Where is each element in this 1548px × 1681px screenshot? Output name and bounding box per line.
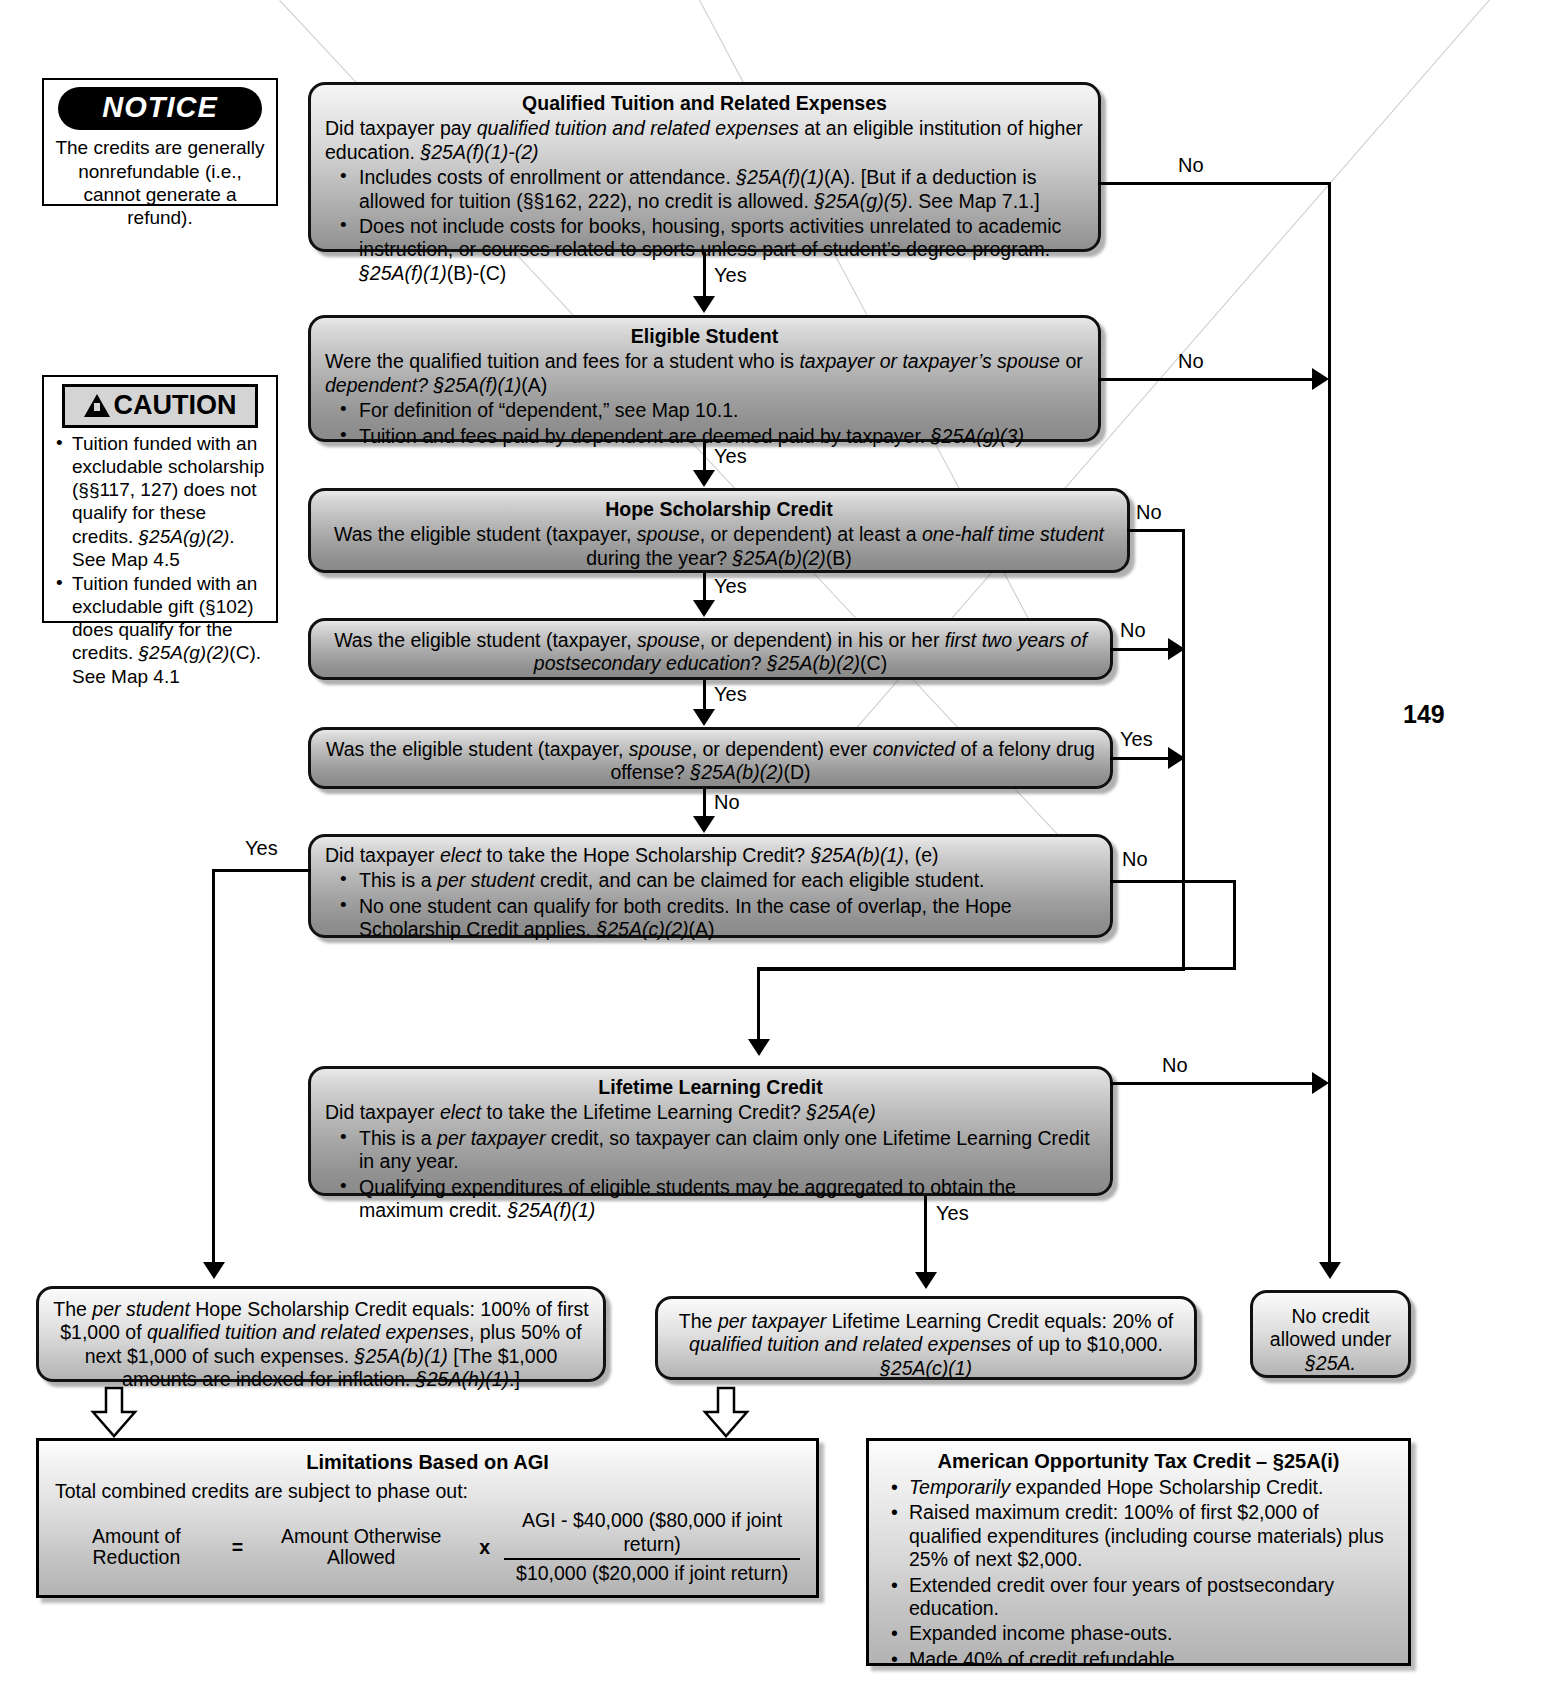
notice-panel: NOTICE The credits are generally nonrefu…: [42, 78, 278, 206]
hollow-arrow-down-icon: [90, 1386, 138, 1438]
node-header: Hope Scholarship Credit: [325, 498, 1113, 521]
result-text: The per taxpayer Lifetime Learning Credi…: [672, 1310, 1180, 1380]
result-no-credit[interactable]: No credit allowed under §25A.: [1250, 1290, 1411, 1378]
node-header: Lifetime Learning Credit: [325, 1076, 1096, 1099]
node-header: Eligible Student: [325, 325, 1084, 348]
node-eligible-student[interactable]: Eligible Student Were the qualified tuit…: [308, 315, 1101, 442]
connector-firsttwo-to-felony: [703, 680, 706, 709]
arrow-down-icon: [203, 1262, 225, 1279]
arrow-down-icon: [693, 470, 715, 487]
formula-equals: =: [232, 1536, 243, 1559]
edge-label-no: No: [1178, 351, 1204, 371]
connector-merge-to-llc: [757, 968, 1185, 971]
node-bullet: This is a per student credit, and can be…: [359, 869, 1096, 892]
aotc-bullet: •Temporarily expanded Hope Scholarship C…: [909, 1476, 1394, 1499]
edge-label-no: No: [1136, 502, 1162, 522]
result-text: No credit allowed under §25A.: [1267, 1305, 1394, 1375]
edge-label-yes: Yes: [714, 446, 747, 466]
connector-electhope-yes-v: [212, 869, 215, 1264]
box-limitations-based-on-agi[interactable]: Limitations Based on AGI Total combined …: [36, 1438, 819, 1598]
edge-label-yes: Yes: [936, 1203, 969, 1223]
edge-label-no: No: [1178, 155, 1204, 175]
hollow-arrow-down-icon: [702, 1386, 750, 1438]
aotc-bullet: •Extended credit over four years of post…: [909, 1574, 1394, 1621]
connector-llc-no-h: [1110, 1082, 1314, 1085]
edge-label-no: No: [714, 792, 740, 812]
formula-times: x: [479, 1536, 490, 1559]
edge-label-yes: Yes: [1120, 729, 1153, 749]
box-american-opportunity-tax-credit[interactable]: American Opportunity Tax Credit – §25A(i…: [866, 1438, 1411, 1666]
arrow-down-icon: [693, 816, 715, 833]
edge-label-no: No: [1162, 1055, 1188, 1075]
arrow-down-icon: [748, 1039, 770, 1056]
arrow-down-icon: [915, 1272, 937, 1289]
caution-item: Tuition funded with an excludable gift (…: [72, 572, 268, 688]
connector-llc-to-result: [924, 1196, 927, 1274]
formula-fraction: AGI - $40,000 ($80,000 if joint return) …: [504, 1509, 800, 1585]
agi-formula: Amount of Reduction = Amount Otherwise A…: [55, 1509, 800, 1585]
formula-left: Amount of Reduction: [55, 1526, 218, 1570]
arrow-down-icon: [693, 709, 715, 726]
edge-label-yes: Yes: [714, 265, 747, 285]
edge-label-no: No: [1120, 620, 1146, 640]
caution-item: Tuition funded with an excludable schola…: [72, 432, 268, 571]
result-hope-credit-amount[interactable]: The per student Hope Scholarship Credit …: [36, 1286, 606, 1382]
warning-triangle-icon: [84, 394, 110, 417]
formula-middle: Amount Otherwise Allowed: [257, 1526, 465, 1570]
connector-qtre-no-h: [1098, 182, 1331, 185]
edge-label-yes: Yes: [245, 838, 278, 858]
node-question: Were the qualified tuition and fees for …: [325, 350, 1084, 397]
edge-label-yes: Yes: [714, 684, 747, 704]
arrow-right-icon: [1312, 368, 1329, 390]
arrow-right-icon: [1168, 638, 1185, 660]
node-qualified-tuition-and-related-expenses[interactable]: Qualified Tuition and Related Expenses D…: [308, 82, 1101, 252]
connector-electhope-no-v: [1233, 880, 1236, 970]
node-question: Was the eligible student (taxpayer, spou…: [325, 523, 1113, 570]
arrow-down-icon: [1319, 1262, 1341, 1279]
connector-electhope-no-h: [1110, 880, 1236, 883]
node-bullet: For definition of “dependent,” see Map 1…: [359, 399, 1084, 422]
edge-label-no: No: [1122, 849, 1148, 869]
node-hope-scholarship-credit[interactable]: Hope Scholarship Credit Was the eligible…: [308, 488, 1130, 573]
connector-eligible-no-h: [1098, 378, 1314, 381]
flowchart-page: NOTICE The credits are generally nonrefu…: [0, 0, 1548, 1681]
caution-panel: CAUTION Tuition funded with an excludabl…: [42, 375, 278, 623]
caution-title-bar: CAUTION: [62, 384, 258, 428]
edge-label-yes: Yes: [714, 576, 747, 596]
formula-denominator: $10,000 ($20,000 if joint return): [504, 1558, 800, 1585]
node-felony-drug-offense[interactable]: Was the eligible student (taxpayer, spou…: [308, 727, 1113, 789]
connector-firsttwo-no-h: [1110, 648, 1172, 651]
node-question: Did taxpayer elect to take the Hope Scho…: [325, 844, 1096, 867]
agi-intro: Total combined credits are subject to ph…: [55, 1480, 800, 1503]
aotc-bullet: •Raised maximum credit: 100% of first $2…: [909, 1501, 1394, 1571]
node-first-two-years[interactable]: Was the eligible student (taxpayer, spou…: [308, 618, 1113, 680]
notice-title: NOTICE: [58, 87, 262, 130]
connector-hope-no-h: [1127, 529, 1185, 532]
page-number: 149: [1403, 700, 1445, 729]
arrow-right-icon: [1168, 747, 1185, 769]
connector-qtre-to-eligible: [703, 252, 706, 298]
result-text: The per student Hope Scholarship Credit …: [53, 1298, 589, 1392]
node-lifetime-learning-credit[interactable]: Lifetime Learning Credit Did taxpayer el…: [308, 1066, 1113, 1196]
node-bullet: Qualifying expenditures of eligible stud…: [359, 1176, 1096, 1223]
notice-body: The credits are generally nonrefundable …: [52, 136, 268, 229]
aotc-bullet: •Expanded income phase-outs.: [909, 1622, 1394, 1645]
connector-felony-yes-h: [1110, 757, 1172, 760]
connector-electhope-no-v2: [757, 967, 760, 1041]
aotc-header: American Opportunity Tax Credit – §25A(i…: [883, 1449, 1394, 1473]
node-header: Qualified Tuition and Related Expenses: [325, 92, 1084, 115]
node-question: Did taxpayer pay qualified tuition and r…: [325, 117, 1084, 164]
node-elect-hope-credit[interactable]: Did taxpayer elect to take the Hope Scho…: [308, 834, 1113, 938]
arrow-right-icon: [1312, 1072, 1329, 1094]
formula-numerator: AGI - $40,000 ($80,000 if joint return): [504, 1509, 800, 1558]
connector-electhope-yes-h: [212, 869, 311, 872]
result-lifetime-learning-amount[interactable]: The per taxpayer Lifetime Learning Credi…: [655, 1296, 1197, 1380]
node-question: Did taxpayer elect to take the Lifetime …: [325, 1101, 1096, 1124]
caution-title: CAUTION: [114, 389, 237, 422]
node-question: Was the eligible student (taxpayer, spou…: [325, 738, 1096, 785]
aotc-bullet: •Made 40% of credit refundable.: [909, 1648, 1394, 1671]
connector-eligible-to-hope: [703, 442, 706, 471]
node-question: Was the eligible student (taxpayer, spou…: [325, 629, 1096, 676]
node-bullet: No one student can qualify for both cred…: [359, 895, 1096, 942]
node-bullet: Includes costs of enrollment or attendan…: [359, 166, 1084, 213]
